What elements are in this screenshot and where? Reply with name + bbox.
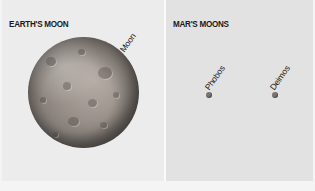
crater	[53, 132, 58, 137]
earths-moon-title: EARTH'S MOON	[9, 19, 68, 29]
crater	[100, 122, 107, 128]
crater	[46, 57, 56, 66]
crater	[113, 92, 119, 98]
crater	[98, 67, 112, 79]
crater	[78, 49, 85, 55]
mars-moons-panel: MAR'S MOONS Phobos Deimos	[166, 0, 313, 181]
moon-image	[28, 37, 139, 148]
crater	[40, 97, 46, 103]
crater	[68, 117, 79, 126]
deimos-label: Deimos	[268, 64, 292, 92]
crater	[88, 99, 97, 107]
moon-label: Moon	[118, 31, 138, 54]
deimos-dot	[272, 92, 278, 98]
crater	[63, 82, 71, 90]
phobos-dot	[206, 92, 212, 98]
mars-moons-title: MAR'S MOONS	[173, 19, 229, 29]
earths-moon-panel: EARTH'S MOON Moon	[2, 0, 164, 181]
phobos-label: Phobos	[203, 64, 227, 92]
